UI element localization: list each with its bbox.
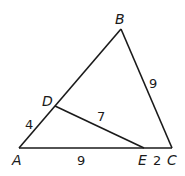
length-ae: 9 [77,153,85,168]
triangle-diagram: B D A E C 4 7 9 2 9 [0,0,185,176]
length-ec: 2 [153,153,161,168]
length-ad: 4 [25,117,33,132]
length-de: 7 [97,109,105,124]
segment-bc [121,29,172,148]
point-label-d: D [42,93,53,109]
point-label-c: C [167,152,177,168]
point-label-e: E [138,152,147,168]
length-bc: 9 [149,76,157,91]
point-label-a: A [11,152,22,168]
diagram-svg: B D A E C 4 7 9 2 9 [0,0,185,176]
point-label-b: B [115,11,125,27]
